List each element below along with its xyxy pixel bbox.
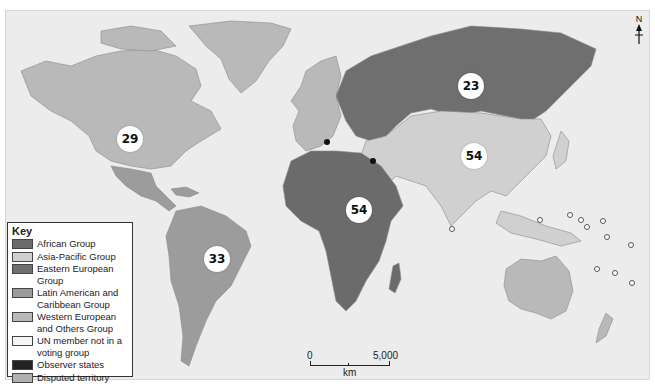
scale-tick-end <box>389 361 390 365</box>
legend-label: Western European and Others Group <box>37 311 128 334</box>
legend-label: UN member not in a voting group <box>37 335 128 358</box>
legend-swatch <box>12 312 33 322</box>
legend-label: Disputed territory <box>37 372 109 384</box>
count-badge-weog: 29 <box>117 126 143 152</box>
legend-swatch <box>12 336 33 346</box>
region-arctic-islands <box>101 26 176 51</box>
region-caribbean <box>171 187 199 197</box>
legend-item-not-in-group: UN member not in a voting group <box>12 335 128 358</box>
legend-item-african: African Group <box>12 238 128 250</box>
legend-swatch <box>12 288 33 298</box>
region-madagascar <box>389 263 401 293</box>
scale-tick-mid <box>348 363 349 365</box>
north-arrow-icon <box>633 24 645 44</box>
region-new-zealand <box>596 313 613 343</box>
region-greenland <box>189 21 291 93</box>
legend-title: Key <box>12 225 128 237</box>
legend-label: Observer states <box>37 359 104 371</box>
region-japan <box>553 131 569 169</box>
region-africa <box>283 151 403 311</box>
north-label: N <box>633 14 645 24</box>
legend-label: Eastern European Group <box>37 263 128 286</box>
legend-swatch <box>12 239 33 249</box>
count-badge-eeg: 23 <box>458 73 484 99</box>
legend-swatch <box>12 264 33 274</box>
legend-item-asia-pacific: Asia-Pacific Group <box>12 251 128 263</box>
legend-item-western-european: Western European and Others Group <box>12 311 128 334</box>
count-badge-grulac: 33 <box>204 246 230 272</box>
region-north-america <box>21 49 221 169</box>
legend-item-latin-american: Latin American and Caribbean Group <box>12 287 128 310</box>
legend-label: African Group <box>37 238 96 250</box>
count-badge-african: 54 <box>346 197 372 223</box>
map-legend: Key African Group Asia-Pacific Group Eas… <box>7 222 133 377</box>
legend-label: Latin American and Caribbean Group <box>37 287 128 310</box>
scale-end-label: 5,000 <box>373 350 398 361</box>
legend-label: Asia-Pacific Group <box>37 251 116 263</box>
region-western-europe <box>291 56 341 151</box>
scale-tick-start <box>310 361 311 365</box>
scale-bar: 0 5,000 km <box>305 350 395 380</box>
region-central-america <box>111 166 176 211</box>
scale-start-label: 0 <box>307 350 313 361</box>
legend-item-disputed: Disputed territory <box>12 372 128 384</box>
region-south-america <box>166 206 251 366</box>
legend-swatch <box>12 360 33 370</box>
observer-state-vatican <box>324 139 330 145</box>
scale-line <box>310 365 390 366</box>
count-badge-asia-pacific: 54 <box>461 143 487 169</box>
north-arrow: N <box>633 14 645 44</box>
legend-swatch <box>12 373 33 383</box>
legend-swatch <box>12 252 33 262</box>
legend-item-observer: Observer states <box>12 359 128 371</box>
scale-unit-label: km <box>343 367 356 378</box>
observer-state-palestine <box>370 158 376 164</box>
legend-item-eastern-european: Eastern European Group <box>12 263 128 286</box>
region-australia <box>504 256 573 319</box>
